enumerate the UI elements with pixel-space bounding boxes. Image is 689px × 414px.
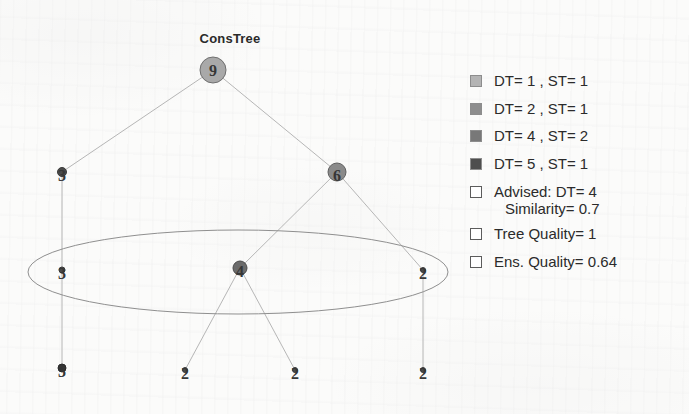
legend-swatch (470, 256, 482, 268)
tree-edge (185, 268, 240, 370)
legend-swatch (470, 75, 482, 87)
tree-edge (62, 70, 213, 172)
tree-nodes: 9363423222 (58, 57, 428, 382)
constree-figure: ConsTree 9363423222 DT= 1 , ST= 1DT= 2 ,… (0, 0, 689, 414)
tree-node[interactable]: 2 (419, 365, 427, 382)
node-label: 2 (181, 365, 189, 382)
tree-edge (240, 172, 337, 268)
tree-node[interactable]: 2 (419, 265, 427, 282)
node-label: 3 (58, 265, 66, 282)
legend-item[interactable]: DT= 4 , ST= 2 (470, 127, 685, 145)
legend-item[interactable]: DT= 2 , ST= 1 (470, 100, 685, 118)
legend-item[interactable]: DT= 1 , ST= 1 (470, 72, 685, 90)
tree-node[interactable]: 9 (200, 57, 226, 83)
node-label: 3 (58, 167, 66, 184)
tree-node[interactable]: 3 (58, 167, 67, 184)
node-label: 4 (236, 263, 244, 280)
tree-edges (62, 70, 423, 370)
tree-edge (337, 172, 423, 270)
legend-item-label: Ens. Quality= 0.64 (494, 253, 617, 271)
tree-node[interactable]: 6 (328, 163, 346, 184)
tree-edge (240, 268, 295, 370)
legend-swatch (470, 103, 482, 115)
legend-item-label: Tree Quality= 1 (494, 225, 596, 243)
node-label: 2 (419, 365, 427, 382)
node-label: 2 (291, 365, 299, 382)
legend-item-label: DT= 2 , ST= 1 (494, 100, 588, 118)
node-label: 6 (333, 167, 341, 184)
legend-item-label: DT= 1 , ST= 1 (494, 72, 588, 90)
tree-edge (213, 70, 337, 172)
legend-swatch (470, 158, 482, 170)
tree-node[interactable]: 3 (58, 265, 66, 282)
legend-swatch (470, 186, 482, 198)
tree-node[interactable]: 3 (58, 363, 66, 380)
legend-item-label: Advised: DT= 4Similarity= 0.7 (494, 183, 600, 218)
legend-item[interactable]: Ens. Quality= 0.64 (470, 253, 685, 271)
legend-swatch (470, 130, 482, 142)
tree-node[interactable]: 2 (291, 365, 299, 382)
legend-item-label: DT= 4 , ST= 2 (494, 127, 588, 145)
legend-item-label: DT= 5 , ST= 1 (494, 155, 588, 173)
legend-item[interactable]: Advised: DT= 4Similarity= 0.7 (470, 183, 685, 218)
tree-node[interactable]: 2 (181, 365, 189, 382)
node-label: 3 (58, 363, 66, 380)
legend-item[interactable]: DT= 5 , ST= 1 (470, 155, 685, 173)
node-label: 2 (419, 265, 427, 282)
legend-swatch (470, 228, 482, 240)
legend-item-label-line2: Similarity= 0.7 (494, 200, 600, 218)
legend-item[interactable]: Tree Quality= 1 (470, 225, 685, 243)
node-label: 9 (209, 62, 217, 79)
legend: DT= 1 , ST= 1DT= 2 , ST= 1DT= 4 , ST= 2D… (470, 72, 685, 281)
